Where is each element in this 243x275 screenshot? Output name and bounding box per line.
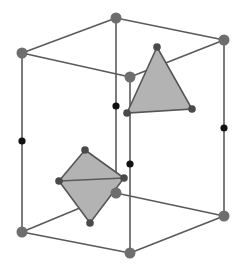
octahedral-vertex-atom-bottom xyxy=(86,219,94,227)
tetrahedral-vertex-atom xyxy=(123,109,131,117)
left-edge-dot xyxy=(18,137,25,144)
edge-top-front-right xyxy=(130,40,224,77)
edge-top-left-front xyxy=(22,53,130,77)
corner-atom-bottom-left xyxy=(17,227,28,238)
corner-atom-top-right xyxy=(219,35,230,46)
tetrahedral-vertex-atom xyxy=(153,43,161,51)
edge-bottom-front-right xyxy=(130,216,224,253)
back-edge-dot xyxy=(112,102,119,109)
tetrahedral-vertex-atom xyxy=(188,105,196,113)
edge-top-back-right xyxy=(116,18,224,40)
diagram-svg xyxy=(0,0,243,275)
corner-atom-top-front xyxy=(125,72,136,83)
corner-atom-top-left xyxy=(17,48,28,59)
cell-edges-front xyxy=(22,18,224,253)
unit-cell-diagram xyxy=(0,0,243,275)
corner-atom-top-back xyxy=(111,13,122,24)
edge-bottom-back-right xyxy=(116,193,224,216)
front-edge-dot xyxy=(126,160,133,167)
corner-atom-bottom-back xyxy=(111,188,122,199)
edge-bottom-left-front xyxy=(22,232,130,253)
corner-atom-bottom-front xyxy=(125,248,136,259)
edge-top-left-back xyxy=(22,18,116,53)
corner-atom-bottom-right xyxy=(219,211,230,222)
octahedral-vertex-atom-left xyxy=(55,177,63,185)
octahedral-vertex-atom-top xyxy=(81,146,89,154)
right-edge-dot xyxy=(220,124,227,131)
cell-edges-back xyxy=(22,18,224,232)
octahedral-vertex-atom-right xyxy=(120,174,128,182)
